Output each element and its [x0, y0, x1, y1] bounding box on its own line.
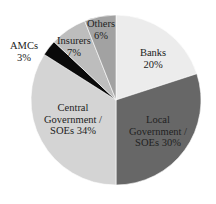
label-local-government: Local Government / SOEs 30%: [123, 114, 193, 149]
label-others: Others 6%: [83, 18, 119, 41]
label-amcs: AMCs 3%: [9, 40, 39, 63]
label-banks: Banks 20%: [133, 47, 173, 70]
label-central-government: Central Government / SOEs 34%: [38, 102, 108, 137]
